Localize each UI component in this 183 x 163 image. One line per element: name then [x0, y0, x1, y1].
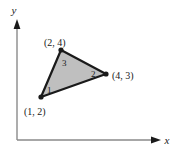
edge-label-2: 2 [91, 69, 96, 79]
coordinate-plane-diagram: y x (1, 2) (2, 4) (4, 3) 1 2 3 [0, 0, 183, 163]
edge-label-1: 1 [47, 85, 52, 95]
x-axis-arrowhead [151, 137, 161, 144]
vertex-dot-4-3 [103, 71, 108, 76]
y-axis-arrowhead [14, 19, 21, 29]
x-axis-label: x [164, 134, 170, 146]
figure-container: y x (1, 2) (2, 4) (4, 3) 1 2 3 [0, 0, 183, 163]
vertex-label-2-4: (2, 4) [44, 37, 66, 49]
vertex-label-4-3: (4, 3) [112, 70, 134, 82]
vertex-dot-2-4 [58, 47, 63, 52]
edge-label-3: 3 [62, 58, 67, 68]
vertex-dot-1-2 [38, 94, 43, 99]
vertex-label-1-2: (1, 2) [24, 106, 46, 118]
y-axis-label: y [11, 4, 17, 16]
